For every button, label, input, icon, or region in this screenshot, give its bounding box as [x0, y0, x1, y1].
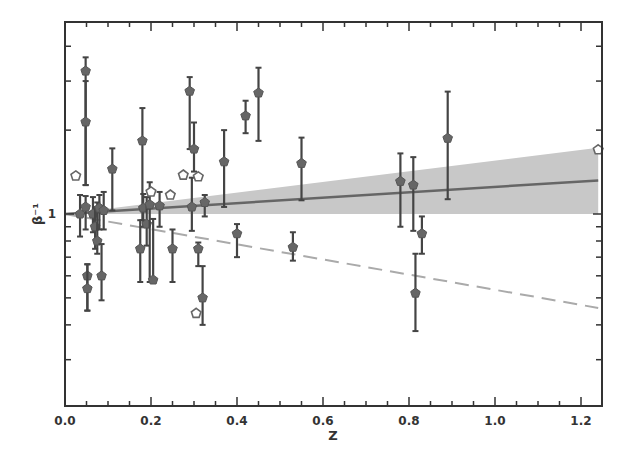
filled-pentagon-marker: [232, 229, 242, 238]
filled-pentagon-marker: [443, 133, 453, 142]
x-tick-label: 0.0: [54, 414, 75, 428]
x-tick-label: 0.8: [398, 414, 419, 428]
x-tick-label: 0.6: [312, 414, 333, 428]
data-point: [288, 232, 298, 260]
x-tick-label: 1.0: [484, 414, 505, 428]
filled-pentagon-marker: [108, 164, 118, 173]
data-point: [254, 68, 264, 141]
data-point: [411, 254, 421, 331]
open-pentagon-marker: [166, 190, 176, 199]
data-point: [417, 216, 427, 253]
y-axis-title: β⁻¹: [30, 203, 45, 225]
data-point: [194, 243, 204, 267]
open-pentagon-marker: [71, 171, 81, 180]
open-pentagon-marker: [191, 308, 201, 317]
filled-pentagon-marker: [254, 88, 264, 97]
data-point: [187, 178, 197, 231]
filled-pentagon-marker: [288, 242, 298, 251]
data-point: [136, 220, 146, 282]
data-point: [155, 192, 165, 227]
data-point: [108, 148, 118, 210]
filled-pentagon-marker: [81, 202, 91, 211]
filled-pentagon-marker: [194, 244, 204, 253]
open-pentagon-marker: [179, 170, 189, 179]
x-tick-label: 1.2: [570, 414, 591, 428]
x-tick-label: 0.2: [140, 414, 161, 428]
data-point: [232, 224, 242, 257]
data-point: [168, 229, 178, 282]
filled-pentagon-marker: [81, 66, 91, 75]
filled-pentagon-marker: [198, 293, 208, 302]
y-tick-label: 1: [48, 207, 56, 221]
x-tick-label: 0.4: [226, 414, 247, 428]
filled-pentagon-marker: [185, 86, 195, 95]
open-pentagon-marker: [146, 187, 156, 196]
filled-pentagon-marker: [417, 229, 427, 238]
data-point: [83, 264, 93, 310]
filled-pentagon-marker: [81, 117, 91, 126]
chart: 0.00.20.40.60.81.01.21 Z β⁻¹: [0, 0, 626, 468]
filled-pentagon-marker: [138, 136, 148, 145]
data-point: [241, 101, 251, 133]
open-pentagon-marker: [194, 172, 204, 181]
filled-pentagon-marker: [168, 244, 178, 253]
filled-pentagon-marker: [136, 244, 146, 253]
x-axis-title: Z: [328, 428, 337, 443]
tick-labels: 0.00.20.40.60.81.01.21: [48, 207, 592, 428]
filled-pentagon-marker: [219, 157, 229, 166]
filled-pentagon-marker: [97, 271, 107, 280]
filled-pentagon-marker: [83, 284, 93, 293]
filled-pentagon-marker: [411, 288, 421, 297]
filled-pentagon-marker: [241, 111, 251, 120]
filled-pentagon-marker: [297, 158, 307, 167]
data-point: [81, 81, 91, 185]
